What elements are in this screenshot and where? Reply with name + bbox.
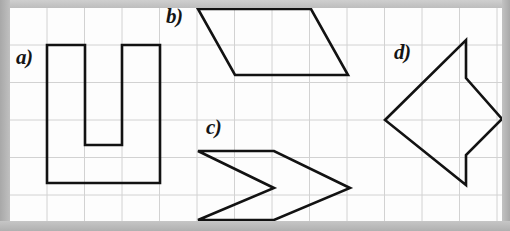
worksheet-image: a) b) c) d) [0,0,510,231]
shape-b-parallelogram [198,9,348,75]
shape-a-u-shape-hexagon [47,45,160,183]
shape-c-chevron-arrow [198,151,350,220]
shape-label-d: d) [394,42,411,63]
shapes-layer [0,0,510,231]
shape-label-c: c) [206,117,221,138]
shape-label-a: a) [16,47,33,68]
shape-label-b: b) [166,6,183,27]
